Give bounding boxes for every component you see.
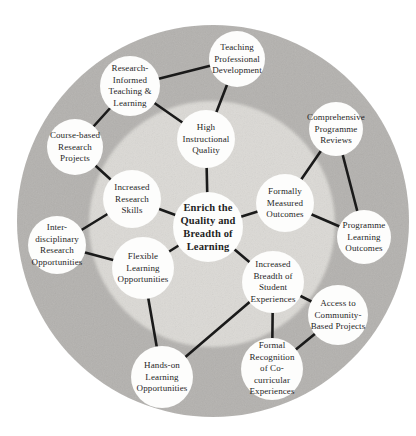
node-label-high-instructional-quality: High Instructional Quality — [169, 122, 243, 157]
node-label-teaching-professional-development: Teaching Professional Development — [201, 42, 273, 77]
node-label-interdisciplinary-research-opportunities: Inter- disciplinary Research Opportuniti… — [20, 222, 94, 268]
node-label-increased-research-skills: Increased Research Skills — [95, 182, 169, 217]
node-label-formally-measured-outcomes: Formally Measured Outcomes — [248, 186, 322, 221]
node-label-course-based-research-projects: Course-based Research Projects — [39, 130, 111, 165]
node-label-comprehensive-programme-reviews: Comprehensive Programme Reviews — [301, 112, 371, 147]
concept-map-figure: Enrich the Quality and Breadth of Learni… — [0, 0, 416, 436]
node-label-flexible-learning-opportunities: Flexible Learning Opportunities — [104, 251, 182, 286]
node-label-hands-on-learning-opportunities: Hands-on Learning Opportunities — [123, 360, 201, 395]
node-label-center: Enrich the Quality and Breadth of Learni… — [165, 201, 251, 253]
node-label-research-informed-teaching-learning: Research- Informed Teaching & Learning — [92, 63, 168, 109]
node-label-access-community-based-projects: Access to Community- Based Projects — [300, 298, 376, 333]
node-label-formal-recognition-cocurricular-experiences: Formal Recognition of Co- curricular Exp… — [233, 340, 311, 398]
node-label-programme-learning-outcomes: Programme Learning Outcomes — [329, 220, 399, 255]
node-labels: Enrich the Quality and Breadth of Learni… — [0, 0, 416, 436]
